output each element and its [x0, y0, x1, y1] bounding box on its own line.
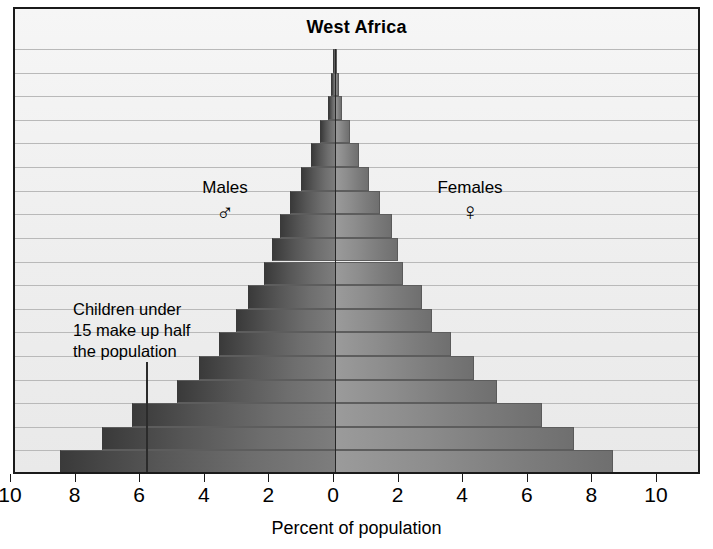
bar-female: [335, 214, 392, 238]
population-pyramid-figure: West Africa Males ♂ Females ♀ Children u…: [0, 0, 713, 549]
bar-male: [320, 120, 335, 144]
annotation-line-2: 15 make up half: [73, 320, 273, 341]
bar-row: [15, 167, 700, 191]
bar-male: [132, 403, 335, 427]
bar-female: [335, 262, 403, 286]
annotation-children-note: Children under 15 make up half the popul…: [73, 299, 273, 361]
center-axis-line: [335, 49, 336, 474]
bar-female: [335, 285, 422, 309]
series-label-males: Males ♂: [170, 179, 280, 224]
bar-female: [335, 120, 350, 144]
bar-male: [311, 143, 335, 167]
bar-row: [15, 262, 700, 286]
bar-female: [335, 450, 613, 474]
x-axis-tick-label: 8: [69, 483, 81, 507]
bar-female: [335, 167, 369, 191]
bar-male: [264, 262, 335, 286]
series-label-females: Females ♀: [405, 179, 535, 224]
x-axis-tick-mark: [333, 474, 334, 482]
bar-row: [15, 73, 700, 97]
x-axis-tick-mark: [204, 474, 205, 482]
bar-male: [60, 450, 335, 474]
x-axis-tick-mark: [75, 474, 76, 482]
x-axis-tick-mark: [268, 474, 269, 482]
x-axis-tick-label: 0: [327, 483, 339, 507]
x-axis-tick-mark: [462, 474, 463, 482]
bar-row: [15, 96, 700, 120]
females-label-text: Females: [437, 178, 502, 197]
bar-female: [335, 96, 342, 120]
bar-row: [15, 238, 700, 262]
x-axis-tick-label: 4: [198, 483, 210, 507]
males-label-text: Males: [202, 178, 247, 197]
bar-male: [301, 167, 335, 191]
annotation-line-3: the population: [73, 341, 273, 362]
x-axis-tick-label: 10: [0, 483, 22, 507]
x-axis-tick-label: 2: [392, 483, 404, 507]
bar-row: [15, 380, 700, 404]
bar-female: [335, 143, 359, 167]
bar-female: [335, 356, 474, 380]
plot-frame: West Africa Males ♂ Females ♀ Children u…: [13, 7, 700, 474]
bar-male: [328, 96, 335, 120]
bar-row: [15, 191, 700, 215]
bar-female: [335, 332, 451, 356]
bar-male: [290, 191, 335, 215]
x-axis-tick-mark: [591, 474, 592, 482]
bar-female: [335, 380, 497, 404]
x-axis-tick-label: 6: [521, 483, 533, 507]
bar-male: [272, 238, 335, 262]
bar-female: [335, 309, 432, 333]
female-symbol-icon: ♀: [405, 199, 535, 224]
bar-row: [15, 214, 700, 238]
chart-title: West Africa: [15, 17, 698, 38]
x-axis-tick-label: 8: [586, 483, 598, 507]
bar-female: [335, 427, 574, 451]
bar-female: [335, 191, 380, 215]
x-axis-tick-mark: [527, 474, 528, 482]
bar-male: [102, 427, 335, 451]
male-symbol-icon: ♂: [170, 199, 280, 224]
bar-row: [15, 120, 700, 144]
bar-female: [335, 238, 398, 262]
bar-row: [15, 49, 700, 73]
bar-row: [15, 143, 700, 167]
x-axis-tick-mark: [10, 474, 11, 482]
x-axis-tick-label: 10: [644, 483, 667, 507]
annotation-line-1: Children under: [73, 299, 273, 320]
x-axis: 1086420246810 Percent of population: [13, 474, 700, 549]
bar-male: [280, 214, 335, 238]
annotation-leader-line: [146, 362, 148, 472]
bar-row: [15, 427, 700, 451]
x-axis-tick-mark: [139, 474, 140, 482]
x-axis-tick-label: 6: [133, 483, 145, 507]
bar-male: [177, 380, 335, 404]
x-axis-tick-label: 4: [456, 483, 468, 507]
bar-row: [15, 450, 700, 474]
bar-row: [15, 403, 700, 427]
plot-area: Males ♂ Females ♀ Children under 15 make…: [15, 49, 700, 474]
bar-female: [335, 403, 542, 427]
x-axis-tick-mark: [656, 474, 657, 482]
x-axis-title: Percent of population: [13, 518, 700, 539]
x-axis-tick-mark: [398, 474, 399, 482]
x-axis-tick-label: 2: [263, 483, 275, 507]
